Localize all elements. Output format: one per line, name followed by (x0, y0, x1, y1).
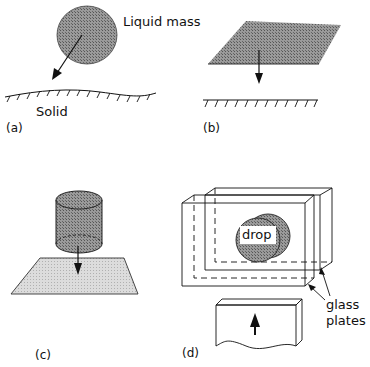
label-glass: glass (326, 297, 359, 312)
figure-canvas (0, 0, 370, 367)
arrowhead-b (255, 73, 263, 84)
panel-label-d: (d) (182, 346, 199, 360)
panel-label-c: (c) (35, 348, 51, 362)
support-block (216, 299, 302, 349)
label-liquid-mass: Liquid mass (123, 14, 201, 29)
liquid-film (208, 21, 341, 64)
arrowhead-a (52, 68, 62, 80)
solid-surface (5, 90, 156, 97)
panel-label-b: (b) (203, 121, 220, 135)
liquid-mass-blob (57, 6, 117, 64)
hatching-b (205, 100, 317, 107)
panel-c (11, 191, 138, 294)
panel-b (203, 21, 341, 107)
label-drop: drop (242, 227, 272, 242)
panel-d (182, 188, 332, 349)
label-plates: plates (326, 313, 366, 328)
cylinder-top (56, 191, 102, 209)
label-solid: Solid (36, 104, 68, 119)
panel-label-a: (a) (6, 121, 23, 135)
